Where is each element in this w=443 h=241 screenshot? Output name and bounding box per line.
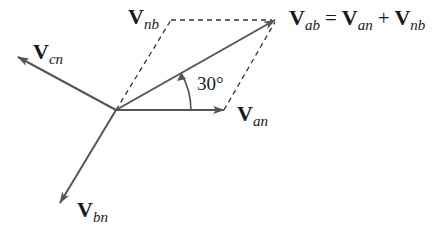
v-an-label: Van <box>237 103 268 125</box>
v-nb-dashed-line <box>116 20 171 110</box>
angle-label: 30° <box>197 73 224 95</box>
v-ab-arrow <box>116 20 275 110</box>
v-bn-arrow <box>60 110 116 203</box>
v-cn-label: Vcn <box>33 41 63 63</box>
phasor-drawing <box>0 0 443 241</box>
equation-label: Vab=Van+Vnb <box>289 7 425 29</box>
phasor-diagram: Vnb Vab=Van+Vnb Vcn 30° Van Vbn <box>0 0 443 241</box>
v-bn-label: Vbn <box>77 199 108 221</box>
v-cn-arrow <box>18 57 116 110</box>
v-nb-label: Vnb <box>128 6 159 28</box>
